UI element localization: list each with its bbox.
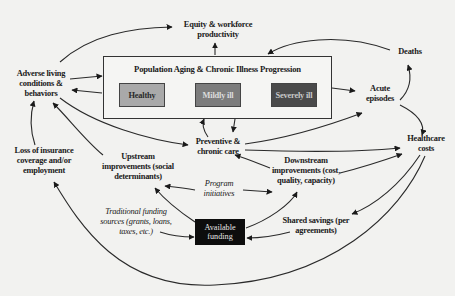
node-acute-episodes: Acute episodes xyxy=(356,84,404,104)
program-line1: Program xyxy=(196,179,242,189)
available-funding-line2: funding xyxy=(207,232,232,242)
traditional-line2: sources (grants, loans, xyxy=(95,217,177,227)
node-loss-of-insurance: Loss of insurance coverage and/or employ… xyxy=(8,146,80,176)
equity-line1: Equity & workforce xyxy=(173,20,263,30)
acute-line2: episodes xyxy=(356,94,404,104)
node-available-funding: Available funding xyxy=(195,219,245,245)
downstream-line3: quality, capacity) xyxy=(268,176,344,186)
loss-insurance-line2: coverage and/or xyxy=(8,156,80,166)
loss-insurance-line3: employment xyxy=(8,166,80,176)
downstream-line1: Downstream xyxy=(268,156,344,166)
preventive-line1: Preventive & xyxy=(190,137,246,147)
stage-severely-ill: Severely ill xyxy=(271,83,317,107)
acute-line1: Acute xyxy=(356,84,404,94)
node-equity-productivity: Equity & workforce productivity xyxy=(173,20,263,40)
equity-line2: productivity xyxy=(173,30,263,40)
frame-title: Population Aging & Chronic Illness Progr… xyxy=(104,64,331,74)
diagram-canvas: Equity & workforce productivity Adverse … xyxy=(0,0,455,296)
stage-healthy: Healthy xyxy=(119,83,165,107)
shared-savings-line2: agreements) xyxy=(276,226,356,236)
shared-savings-line1: Shared savings (per xyxy=(276,216,356,226)
stage-mildly-ill: Mildly ill xyxy=(195,83,241,107)
loss-insurance-line1: Loss of insurance xyxy=(8,146,80,156)
adverse-line1: Adverse living xyxy=(8,69,74,79)
adverse-line2: conditions & xyxy=(8,79,74,89)
node-program-initiatives: Program initiatives xyxy=(196,179,242,199)
node-upstream-improvements: Upstream improvements (social determinan… xyxy=(96,152,180,182)
node-adverse-living-conditions: Adverse living conditions & behaviors xyxy=(8,69,74,99)
node-preventive-chronic-care: Preventive & chronic care xyxy=(190,137,246,157)
upstream-line3: determinants) xyxy=(96,172,180,182)
traditional-line3: taxes, etc.) xyxy=(95,227,177,237)
downstream-line2: improvements (cost, xyxy=(268,166,344,176)
node-traditional-funding-sources: Traditional funding sources (grants, loa… xyxy=(95,207,177,237)
healthcare-costs-line2: costs xyxy=(400,144,452,154)
deaths-line1: Deaths xyxy=(385,47,435,57)
traditional-line1: Traditional funding xyxy=(95,207,177,217)
healthcare-costs-line1: Healthcare xyxy=(400,134,452,144)
available-funding-line1: Available xyxy=(204,223,235,233)
adverse-line3: behaviors xyxy=(8,89,74,99)
node-deaths: Deaths xyxy=(385,47,435,57)
preventive-line2: chronic care xyxy=(190,147,246,157)
node-shared-savings: Shared savings (per agreements) xyxy=(276,216,356,236)
upstream-line1: Upstream xyxy=(96,152,180,162)
population-aging-frame: Population Aging & Chronic Illness Progr… xyxy=(103,56,332,119)
node-downstream-improvements: Downstream improvements (cost, quality, … xyxy=(268,156,344,186)
program-line2: initiatives xyxy=(196,189,242,199)
upstream-line2: improvements (social xyxy=(96,162,180,172)
node-healthcare-costs: Healthcare costs xyxy=(400,134,452,154)
